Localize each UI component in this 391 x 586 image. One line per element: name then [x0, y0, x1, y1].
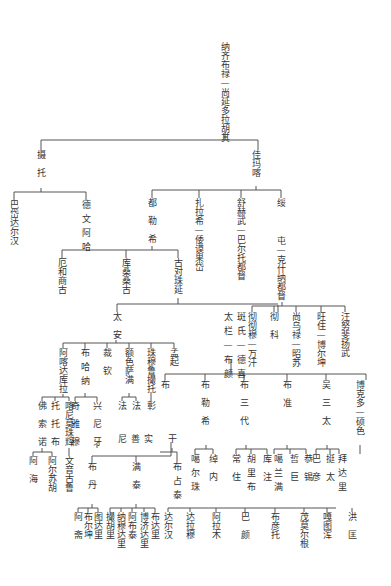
- node-wangzhu: 旺住—博尔坤: [316, 312, 326, 367]
- node-ahai: 阿海: [28, 456, 38, 492]
- node-qiyamu: 奇雅穆: [70, 401, 80, 455]
- node-hulibu: 胡里布: [246, 454, 256, 496]
- node-kuzhu: 库注: [262, 454, 272, 490]
- root-ancestor: 纳齐布禄—尚延多拉胡其: [220, 42, 230, 142]
- node-shetuo: 摄托: [36, 150, 46, 186]
- node-zheju: 哲巨: [289, 454, 299, 490]
- node-dulexi: 都勒希: [147, 198, 157, 252]
- node-mengqi: 孟起: [169, 348, 179, 366]
- node-fosuonuo: 佛索诺: [37, 401, 47, 455]
- node-wangnu: 汪努斐扬武: [340, 312, 350, 357]
- node-eheshanggu: 厄和商古: [57, 258, 67, 294]
- node-taolan-buyan: 太栏—布颜: [223, 312, 233, 383]
- node-bu: 布: [160, 380, 170, 389]
- node-budali: 布达里: [150, 512, 160, 539]
- node-namudali: 纳穆达里: [116, 512, 126, 548]
- node-hongkuang: 洪匡: [347, 512, 357, 548]
- node-fa-1: 法: [117, 401, 127, 410]
- node-gaerzhu: 噶尔珠: [190, 454, 200, 496]
- node-mantai: 满泰: [131, 462, 141, 498]
- node-caiqin: 裁钦: [102, 348, 112, 384]
- node-baidali: 拜达里: [337, 454, 347, 496]
- node-nishanshi: 尼善实: [118, 434, 157, 445]
- node-jiamaka: 佳玛喀: [251, 150, 261, 177]
- node-tingtai: 挺太: [325, 454, 335, 490]
- node-tun: 屯—克什纳都督: [276, 236, 286, 300]
- node-shangwulu: 尚乌禄—昭苏: [291, 312, 301, 367]
- node-buzhun: 布准: [282, 380, 292, 416]
- node-budan: 布丹: [87, 462, 97, 498]
- node-abutai: 阿布泰: [127, 512, 137, 539]
- node-xingniya: 兴尼牙: [92, 401, 102, 455]
- node-badaidaerhan: 巴岱达尔汉: [9, 200, 19, 245]
- node-bayan: 巴彦: [311, 454, 321, 490]
- node-banshi-dexi: 斑氏—德喜: [236, 312, 246, 383]
- node-galanman: 噶兰满: [273, 454, 283, 496]
- node-cuohuli: 撮胡里: [105, 512, 115, 539]
- node-chechemu: 彻彻穆—万汗: [247, 312, 257, 367]
- node-zhumulu: 珠穆鲁撮托: [146, 348, 156, 393]
- node-taian: 太安: [112, 312, 122, 348]
- node-wenyingulu: 文音古鲁: [64, 456, 74, 492]
- node-chuonei: 绰内: [208, 454, 218, 490]
- node-busandai: 布三代: [239, 380, 249, 434]
- node-aersuhu: 阿尔苏胡: [47, 456, 57, 492]
- node-alamu: 阿拉木: [211, 512, 221, 539]
- node-bokeduo: 博克多—硕色: [355, 380, 365, 435]
- node-buyantuo: 布彦托: [270, 512, 280, 539]
- node-bojidali: 博济达里: [139, 512, 149, 548]
- node-shuhewu: 舒赫武—巴尔托都督: [236, 198, 246, 280]
- node-cheke: 彻科: [269, 312, 279, 348]
- node-esesaman: 额色萨满: [124, 348, 134, 384]
- node-sui: 绥: [276, 198, 286, 207]
- node-gatuhun: 嘎图浑: [322, 512, 332, 539]
- node-tudali: 图达里: [93, 512, 103, 539]
- node-kusangsanggu: 库桑桑古: [121, 258, 131, 294]
- node-akadakula: 阿喀达库拉: [58, 348, 68, 393]
- node-bayan-2: 巴颜: [240, 512, 250, 548]
- node-dewenaha: 德文阿哈: [81, 200, 91, 256]
- node-buzhantai: 布占泰: [172, 462, 182, 504]
- node-guduizhuyan: 古对珠延: [173, 258, 183, 294]
- node-buhana: 布哈纳: [80, 348, 90, 390]
- node-daerhan: 达尔汉: [163, 512, 173, 539]
- node-zhang: 彰: [146, 401, 156, 410]
- node-bulexi: 布勒希: [200, 380, 210, 434]
- node-maomoergen: 茂莫尔根: [299, 512, 309, 548]
- node-dalamu: 达拉穆: [185, 512, 195, 539]
- node-tuotuobu: 托托布: [50, 401, 60, 455]
- node-zhalaxi: 扎拉希—倭谟果岱: [194, 198, 204, 271]
- node-changzhu: 常住: [231, 454, 241, 490]
- node-gan: 干: [167, 434, 177, 443]
- node-fa-2: 法: [131, 401, 141, 410]
- node-wusantai: 吴三太: [321, 380, 331, 434]
